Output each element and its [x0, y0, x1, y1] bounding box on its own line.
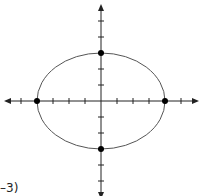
- y-axis: [98, 4, 104, 196]
- coordinate-plane: [0, 0, 201, 196]
- co-vertex-point-bottom: [98, 146, 104, 152]
- partial-caption-text: –3): [0, 180, 18, 196]
- right-arrow-icon: [192, 98, 199, 104]
- up-arrow-icon: [98, 4, 104, 11]
- down-arrow-icon: [98, 192, 104, 196]
- left-arrow-icon: [4, 98, 11, 104]
- ellipse-diagram: –3): [0, 0, 201, 196]
- vertex-point-left: [34, 98, 40, 104]
- vertex-point-right: [162, 98, 168, 104]
- co-vertex-point-top: [98, 50, 104, 56]
